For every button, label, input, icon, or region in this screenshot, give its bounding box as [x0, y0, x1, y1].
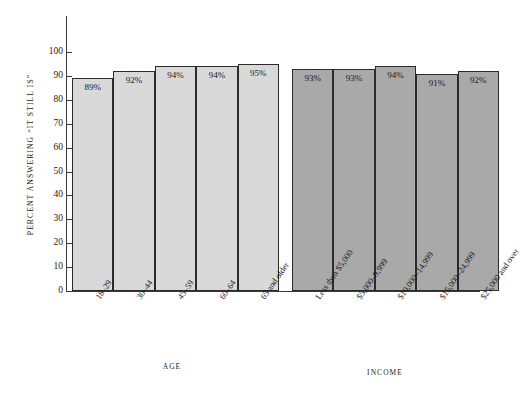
y-tick-label-100: 100	[49, 47, 63, 57]
y-tick-90	[67, 76, 72, 77]
y-tick-label-90: 90	[54, 71, 64, 81]
y-tick-label-60: 60	[54, 143, 64, 153]
y-tick-label-30: 30	[54, 214, 64, 224]
bar-value-label: 94%	[156, 71, 195, 80]
y-tick-label-0: 0	[58, 286, 63, 296]
y-tick-label-40: 40	[54, 190, 64, 200]
bar-age-0[interactable]: 89%	[72, 78, 113, 291]
group-title-income: INCOME	[335, 368, 435, 377]
y-tick-label-70: 70	[54, 119, 64, 129]
bar-value-label: 94%	[376, 71, 415, 80]
y-tick-100	[67, 52, 72, 53]
bar-value-label: 89%	[73, 83, 112, 92]
bar-value-label: 94%	[197, 71, 236, 80]
bar-value-label: 93%	[293, 74, 332, 83]
y-tick-0	[67, 291, 72, 292]
bar-age-1[interactable]: 92%	[113, 71, 154, 291]
y-tick-label-10: 10	[54, 262, 64, 272]
bar-value-label: 95%	[239, 69, 278, 78]
bar-value-label: 92%	[114, 76, 153, 85]
y-tick-label-50: 50	[54, 167, 64, 177]
group-title-age: AGE	[122, 362, 222, 371]
bar-age-3[interactable]: 94%	[196, 66, 237, 291]
y-tick-label-80: 80	[54, 95, 64, 105]
y-axis-title: PERCENT ANSWERING “IT STILL IS”	[26, 55, 35, 255]
bar-value-label: 93%	[334, 74, 373, 83]
y-axis-line	[66, 16, 67, 292]
bar-age-4[interactable]: 95%	[238, 64, 279, 291]
bar-value-label: 91%	[417, 79, 456, 88]
bar-age-2[interactable]: 94%	[155, 66, 196, 291]
bar-income-0[interactable]: 93%	[292, 69, 333, 291]
y-tick-label-20: 20	[54, 238, 64, 248]
bar-value-label: 92%	[459, 76, 498, 85]
